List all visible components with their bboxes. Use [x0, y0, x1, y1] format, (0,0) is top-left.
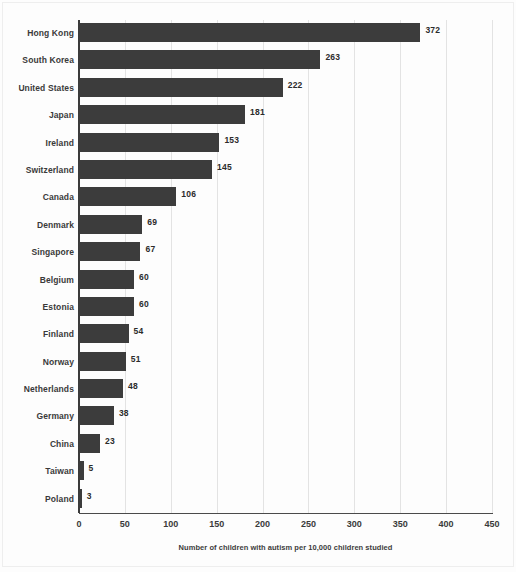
x-axis-tick-labels: 050100150200250300350400450	[0, 518, 516, 534]
bar-value-label: 23	[105, 435, 115, 447]
category-label: Hong Kong	[0, 27, 74, 39]
x-tick-label: 200	[243, 518, 283, 530]
bar-row[interactable]: 69	[79, 212, 492, 239]
bar-row[interactable]: 153	[79, 130, 492, 157]
bar[interactable]	[79, 270, 134, 289]
category-label: Taiwan	[0, 465, 74, 477]
bar-row[interactable]: 48	[79, 376, 492, 403]
bar-value-label: 3	[87, 490, 92, 502]
y-axis-category-labels: Hong KongSouth KoreaUnited StatesJapanIr…	[0, 20, 74, 513]
category-label: China	[0, 438, 74, 450]
bar-value-label: 153	[224, 134, 239, 146]
bar-value-label: 145	[217, 161, 232, 173]
x-tick-label: 350	[380, 518, 420, 530]
bar-value-label: 372	[425, 24, 440, 36]
x-tick-label: 250	[288, 518, 328, 530]
x-tick-label: 450	[472, 518, 512, 530]
x-tick-label: 300	[334, 518, 374, 530]
x-axis-line	[79, 513, 493, 514]
bar[interactable]	[79, 434, 100, 453]
bar-row[interactable]: 54	[79, 321, 492, 348]
category-label: Canada	[0, 191, 74, 203]
bar[interactable]	[79, 379, 123, 398]
bar-value-label: 38	[119, 407, 129, 419]
bar-row[interactable]: 67	[79, 239, 492, 266]
bar[interactable]	[79, 324, 129, 343]
bar-value-label: 54	[134, 325, 144, 337]
category-label: Netherlands	[0, 383, 74, 395]
bar-row[interactable]: 222	[79, 75, 492, 102]
bar-row[interactable]: 263	[79, 47, 492, 74]
bar-row[interactable]: 23	[79, 431, 492, 458]
bar-row[interactable]: 106	[79, 184, 492, 211]
bar[interactable]	[79, 352, 126, 371]
bar-row[interactable]: 3	[79, 486, 492, 513]
gridline-450	[492, 20, 493, 513]
bar-value-label: 222	[288, 79, 303, 91]
bar-value-label: 5	[89, 462, 94, 474]
x-tick-label: 400	[426, 518, 466, 530]
bar-value-label: 51	[131, 353, 141, 365]
x-tick-label: 50	[105, 518, 145, 530]
bar-row[interactable]: 181	[79, 102, 492, 129]
bar[interactable]	[79, 461, 84, 480]
x-tick-label: 150	[197, 518, 237, 530]
category-label: Singapore	[0, 246, 74, 258]
bar[interactable]	[79, 406, 114, 425]
bar-row[interactable]: 38	[79, 403, 492, 430]
bar[interactable]	[79, 105, 245, 124]
category-label: United States	[0, 82, 74, 94]
bar-value-label: 106	[181, 188, 196, 200]
bar-chart: Hong KongSouth KoreaUnited StatesJapanIr…	[0, 0, 516, 572]
bar-value-label: 67	[145, 243, 155, 255]
x-tick-label: 0	[59, 518, 99, 530]
category-label: Denmark	[0, 219, 74, 231]
bar[interactable]	[79, 23, 420, 42]
bar[interactable]	[79, 489, 82, 508]
bar-value-label: 48	[128, 380, 138, 392]
category-label: Switzerland	[0, 164, 74, 176]
bar-value-label: 263	[325, 51, 340, 63]
bar-row[interactable]: 60	[79, 294, 492, 321]
category-label: Japan	[0, 109, 74, 121]
category-label: Germany	[0, 410, 74, 422]
category-label: Finland	[0, 328, 74, 340]
bar-row[interactable]: 60	[79, 267, 492, 294]
category-label: Belgium	[0, 274, 74, 286]
bar[interactable]	[79, 78, 283, 97]
bar-row[interactable]: 51	[79, 349, 492, 376]
bar[interactable]	[79, 297, 134, 316]
bar-value-label: 181	[250, 106, 265, 118]
category-label: Ireland	[0, 137, 74, 149]
plot-area: 3722632221811531451066967606054514838235…	[79, 20, 492, 513]
bar[interactable]	[79, 133, 219, 152]
bar[interactable]	[79, 50, 320, 69]
bar[interactable]	[79, 215, 142, 234]
bar-value-label: 60	[139, 271, 149, 283]
x-axis-title: Number of children with autism per 10,00…	[79, 543, 492, 553]
bar-row[interactable]: 145	[79, 157, 492, 184]
bar-value-label: 60	[139, 298, 149, 310]
bar-value-label: 69	[147, 216, 157, 228]
category-label: Poland	[0, 493, 74, 505]
bar-row[interactable]: 372	[79, 20, 492, 47]
bar[interactable]	[79, 187, 176, 206]
bar[interactable]	[79, 242, 140, 261]
category-label: South Korea	[0, 54, 74, 66]
bar[interactable]	[79, 160, 212, 179]
x-tick-label: 100	[151, 518, 191, 530]
category-label: Norway	[0, 356, 74, 368]
bar-row[interactable]: 5	[79, 458, 492, 485]
category-label: Estonia	[0, 301, 74, 313]
